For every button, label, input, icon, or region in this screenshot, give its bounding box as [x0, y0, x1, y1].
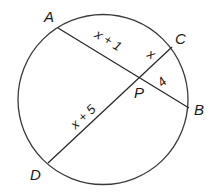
segment-label-dp: x + 5: [67, 101, 99, 133]
chord-dc: [48, 47, 172, 163]
point-label-p: P: [134, 84, 144, 101]
point-label-d: D: [30, 166, 41, 183]
point-label-b: B: [194, 101, 204, 118]
point-label-c: C: [175, 30, 186, 47]
segment-label-pc: x: [144, 46, 159, 63]
segment-label-ap: x + 1: [91, 26, 124, 54]
intersecting-chords-diagram: A C P B D x + 1 x 4 x + 5: [0, 0, 216, 196]
point-label-a: A: [43, 8, 54, 25]
segment-label-pb: 4: [154, 74, 170, 90]
